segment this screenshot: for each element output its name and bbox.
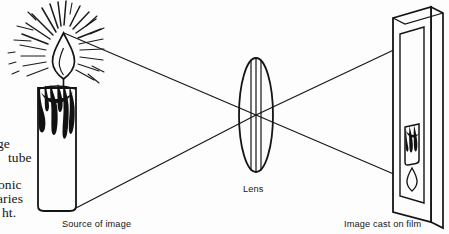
film-back-slab: [431, 7, 443, 228]
label-lens: Lens: [243, 184, 264, 194]
margin-text-fragment-2: tube: [8, 150, 32, 166]
flame: [52, 33, 74, 79]
label-image-cast-on-film: Image cast on film: [344, 219, 421, 229]
inverted-candle-image: [405, 124, 419, 191]
converging-lens: [239, 58, 273, 172]
margin-text-fragment-5: ht.: [2, 205, 16, 221]
label-source-of-image: Source of image: [62, 219, 131, 229]
figure-canvas: ge tube onic aries ht. Source of image L…: [0, 0, 449, 234]
optics-diagram: [0, 0, 449, 234]
film-screen: [393, 7, 443, 228]
